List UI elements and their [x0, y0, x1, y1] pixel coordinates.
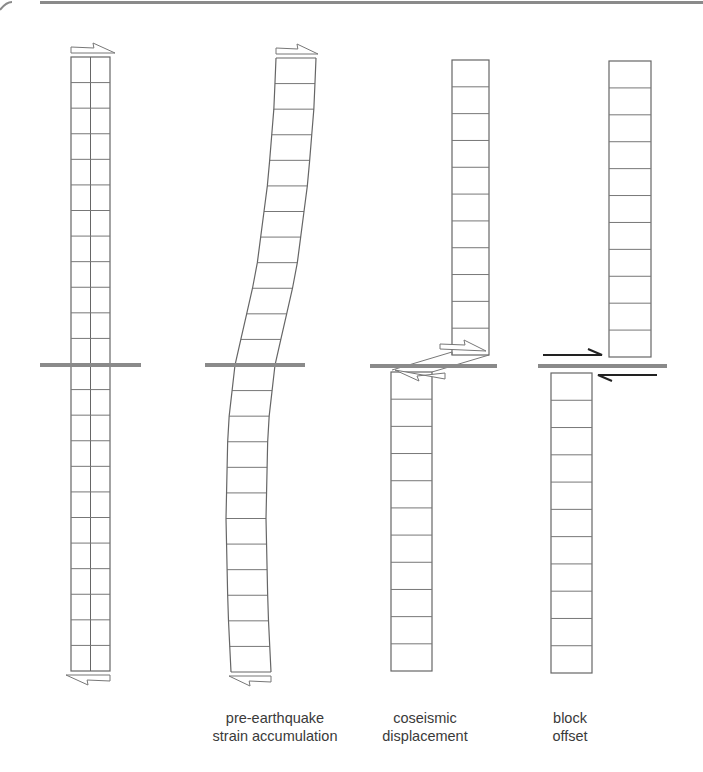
slip-connector: [432, 355, 489, 372]
top-border: [0, 2, 703, 10]
slip-arrow-left-icon: [598, 375, 657, 381]
shear-arrow-icon: [66, 675, 110, 685]
lower-block: [551, 373, 592, 673]
panel-initial: [40, 43, 141, 685]
panel-coseismic-displacement: [370, 60, 497, 671]
label-line1: coseismic: [375, 709, 475, 727]
label-line2: strain accumulation: [185, 727, 365, 745]
slip-arrow-right-icon: [543, 349, 602, 355]
panel-block-offset: [538, 61, 667, 673]
label-line1: pre-earthquake: [185, 709, 365, 727]
shear-arrow-icon: [71, 43, 115, 53]
shear-arrow-icon: [276, 44, 318, 54]
shear-arrow-icon: [229, 676, 271, 686]
shear-arrow-right-icon: [440, 340, 486, 351]
panel-strain-accumulation: [205, 44, 318, 686]
label-line1: block: [530, 709, 610, 727]
label-coseismic-displacement: coseismic displacement: [375, 709, 475, 745]
label-block-offset: block offset: [530, 709, 610, 745]
lower-block: [391, 372, 432, 671]
label-line2: offset: [530, 727, 610, 745]
label-line2: displacement: [375, 727, 475, 745]
elastic-rebound-diagram: [0, 0, 703, 772]
upper-block: [452, 60, 489, 355]
upper-block: [609, 61, 651, 357]
label-strain-accumulation: pre-earthquake strain accumulation: [185, 709, 365, 745]
